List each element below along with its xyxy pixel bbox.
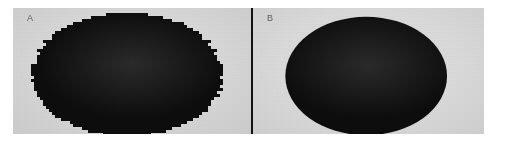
jagged-ellipse-icon: [13, 8, 251, 134]
figure-canvas: A B: [0, 0, 505, 148]
panel-a: A: [13, 8, 251, 134]
panel-b-label: B: [267, 14, 273, 23]
figure-plate: A B: [13, 8, 484, 134]
panel-b-blob-region: [253, 8, 484, 134]
smooth-ellipse-icon: [253, 8, 484, 134]
panel-a-label: A: [27, 14, 33, 23]
panel-a-blob-region: [13, 8, 251, 134]
panel-b: B: [253, 8, 484, 134]
